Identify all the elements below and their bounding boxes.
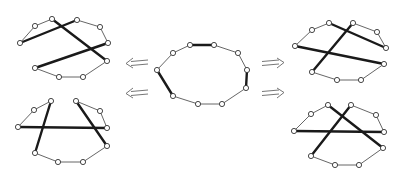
thin-edge: [351, 105, 376, 115]
node-3: [105, 40, 110, 45]
double-arrow: [262, 58, 284, 68]
node-6: [55, 159, 60, 164]
node-7: [32, 65, 37, 70]
node-2: [235, 50, 240, 55]
graph-bottom-right: [291, 102, 386, 167]
graph-bottom-left: [15, 98, 109, 164]
node-1: [74, 17, 79, 22]
node-1: [211, 42, 216, 47]
thin-edge: [361, 64, 384, 80]
arrow-to-bottom-left-icon: [126, 88, 148, 98]
thin-edge: [157, 53, 173, 70]
node-5: [358, 77, 363, 82]
node-4: [380, 145, 385, 150]
node-7: [309, 69, 314, 74]
node-9: [32, 23, 37, 28]
node-6: [195, 101, 200, 106]
node-5: [80, 159, 85, 164]
bold-edge: [294, 131, 384, 132]
arrow-to-bottom-right-icon: [262, 88, 284, 98]
double-arrow: [262, 88, 284, 98]
node-6: [56, 74, 61, 79]
thin-edge: [222, 88, 246, 104]
thin-edge: [311, 156, 335, 165]
thin-edge: [353, 23, 377, 32]
bold-edge: [18, 127, 107, 128]
node-7: [32, 150, 37, 155]
node-2: [373, 112, 378, 117]
node-8: [17, 40, 22, 45]
node-4: [243, 85, 248, 90]
thin-edge: [18, 110, 34, 127]
node-3: [244, 67, 249, 72]
node-1: [73, 98, 78, 103]
thin-edge: [295, 30, 312, 46]
thin-edge: [35, 68, 59, 77]
node-3: [383, 45, 388, 50]
thin-edge: [294, 114, 311, 131]
node-5: [80, 74, 85, 79]
thin-edge: [173, 96, 198, 104]
node-0: [325, 102, 330, 107]
node-4: [104, 58, 109, 63]
bold-edge: [312, 23, 353, 72]
node-0: [187, 42, 192, 47]
thin-edge: [83, 146, 107, 162]
node-9: [31, 107, 36, 112]
node-0: [48, 98, 53, 103]
bold-edge: [329, 23, 386, 48]
bold-edge: [295, 46, 384, 64]
node-0: [49, 16, 54, 21]
edge-exchange-diagram: [0, 0, 401, 177]
node-9: [309, 27, 314, 32]
graphs: [15, 16, 388, 167]
node-6: [332, 162, 337, 167]
thin-edge: [312, 72, 337, 80]
node-4: [104, 143, 109, 148]
node-5: [219, 101, 224, 106]
node-2: [97, 108, 102, 113]
thin-edge: [83, 61, 107, 77]
thin-edge: [359, 148, 383, 165]
node-7: [308, 153, 313, 158]
arrow-to-top-right-icon: [262, 58, 284, 68]
node-9: [308, 111, 313, 116]
node-4: [381, 61, 386, 66]
arrows: [126, 58, 284, 98]
node-1: [348, 102, 353, 107]
graph-top-right: [292, 20, 388, 82]
node-8: [292, 43, 297, 48]
node-0: [326, 20, 331, 25]
graph-center: [154, 42, 249, 106]
node-5: [356, 162, 361, 167]
thin-edge: [214, 45, 238, 53]
node-3: [381, 129, 386, 134]
node-6: [334, 77, 339, 82]
node-3: [104, 125, 109, 130]
bold-edge: [35, 43, 108, 68]
node-2: [97, 24, 102, 29]
node-8: [154, 67, 159, 72]
node-8: [291, 128, 296, 133]
node-1: [350, 20, 355, 25]
thin-edge: [35, 153, 58, 162]
bold-edge: [328, 105, 383, 148]
thin-edge: [77, 20, 100, 27]
node-7: [170, 93, 175, 98]
graph-top-left: [17, 16, 110, 79]
node-2: [374, 29, 379, 34]
node-9: [170, 50, 175, 55]
double-arrow: [126, 58, 148, 68]
arrow-to-top-left-icon: [126, 58, 148, 68]
double-arrow: [126, 88, 148, 98]
bold-edge: [157, 70, 173, 96]
node-8: [15, 124, 20, 129]
